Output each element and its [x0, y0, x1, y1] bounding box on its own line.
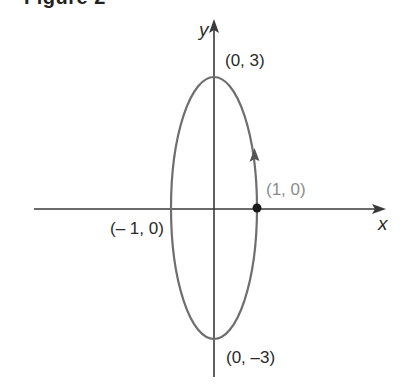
start-point-dot	[253, 204, 262, 213]
x-axis	[34, 204, 386, 214]
point-label-left: (– 1, 0)	[110, 219, 164, 238]
y-axis-label: y	[197, 19, 210, 40]
x-axis-label: x	[377, 213, 389, 234]
point-label-top: (0, 3)	[225, 51, 265, 70]
point-label-start: (1, 0)	[266, 180, 306, 199]
ellipse-diagram: y x (0, 3) (1, 0) (– 1, 0) (0, –3)	[0, 0, 417, 391]
point-label-bottom: (0, –3)	[226, 348, 275, 367]
y-axis	[209, 19, 219, 377]
